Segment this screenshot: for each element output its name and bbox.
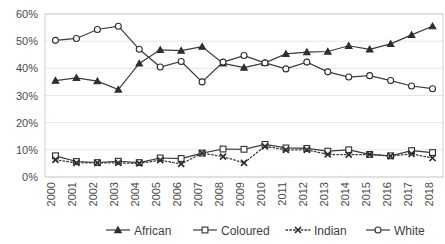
x-axis-tick-label: 2007 xyxy=(192,182,204,206)
legend-label: Coloured xyxy=(221,224,270,238)
x-axis-tick-label: 2003 xyxy=(108,182,120,206)
legend-item-white[interactable]: White xyxy=(366,224,425,238)
y-axis-tick-label: 50% xyxy=(16,35,38,47)
x-axis-tick-label: 2018 xyxy=(423,182,435,206)
legend-label: White xyxy=(394,224,425,238)
legend-label: Indian xyxy=(314,224,347,238)
marker-circle xyxy=(241,53,247,59)
y-axis-tick-label: 30% xyxy=(16,90,38,102)
marker-triangle xyxy=(408,32,415,38)
marker-circle xyxy=(304,59,310,65)
x-axis-tick-label: 2015 xyxy=(360,182,372,206)
x-axis-tick-label: 2013 xyxy=(318,182,330,206)
y-axis-tick-label: 40% xyxy=(16,62,38,74)
legend-label: African xyxy=(134,224,171,238)
marker-square xyxy=(241,146,247,152)
marker-circle xyxy=(388,78,394,84)
legend: AfricanColouredIndianWhite xyxy=(106,224,425,238)
marker-circle xyxy=(375,227,381,233)
legend-item-indian[interactable]: Indian xyxy=(286,224,347,238)
x-axis-tick-label: 2009 xyxy=(234,182,246,206)
x-axis-tick-label: 2004 xyxy=(129,182,141,206)
marker-triangle xyxy=(199,43,206,49)
marker-circle xyxy=(157,64,163,70)
legend-item-coloured[interactable]: Coloured xyxy=(193,224,270,238)
marker-circle xyxy=(367,73,373,79)
marker-square xyxy=(220,146,226,152)
legend-item-african[interactable]: African xyxy=(106,224,171,238)
y-axis-tick-label: 10% xyxy=(16,144,38,156)
marker-circle xyxy=(283,66,289,72)
x-axis-tick-label: 2008 xyxy=(213,182,225,206)
x-axis-tick-label: 2005 xyxy=(150,182,162,206)
marker-square xyxy=(430,150,436,156)
marker-circle xyxy=(94,26,100,32)
x-axis-tick-label: 2006 xyxy=(171,182,183,206)
marker-triangle xyxy=(136,60,143,66)
x-axis-tick-label: 2001 xyxy=(66,182,78,206)
marker-triangle xyxy=(345,43,352,49)
marker-circle xyxy=(115,23,121,29)
line-chart: 0%10%20%30%40%50%60%20002001200220032004… xyxy=(0,0,445,244)
marker-circle xyxy=(73,35,79,41)
x-axis-group: 2000200120022003200420052006200720082009… xyxy=(45,182,434,206)
x-axis-tick-label: 2016 xyxy=(381,182,393,206)
x-axis-tick-label: 2012 xyxy=(297,182,309,206)
x-axis-tick-label: 2010 xyxy=(255,182,267,206)
x-axis-tick-label: 2017 xyxy=(402,182,414,206)
x-axis-tick-label: 2011 xyxy=(276,182,288,206)
marker-circle xyxy=(178,59,184,65)
y-axis-tick-label: 0% xyxy=(22,171,38,183)
marker-x xyxy=(295,227,301,233)
marker-circle xyxy=(136,46,142,52)
marker-circle xyxy=(220,59,226,65)
marker-circle xyxy=(262,60,268,66)
marker-circle xyxy=(325,69,331,75)
marker-circle xyxy=(199,79,205,85)
x-axis-tick-label: 2002 xyxy=(87,182,99,206)
gridlines-group: 0%10%20%30%40%50%60% xyxy=(16,8,443,183)
marker-circle xyxy=(409,83,415,89)
marker-square xyxy=(178,156,184,162)
marker-circle xyxy=(52,37,58,43)
marker-circle xyxy=(346,74,352,80)
y-axis-tick-label: 60% xyxy=(16,8,38,20)
marker-circle xyxy=(430,86,436,92)
x-axis-tick-label: 2014 xyxy=(339,182,351,206)
x-axis-tick-label: 2000 xyxy=(45,182,57,206)
chart-canvas: 0%10%20%30%40%50%60%20002001200220032004… xyxy=(0,0,445,244)
y-axis-tick-label: 20% xyxy=(16,117,38,129)
marker-square xyxy=(202,227,208,233)
marker-triangle xyxy=(429,23,436,29)
series-white xyxy=(52,23,435,91)
